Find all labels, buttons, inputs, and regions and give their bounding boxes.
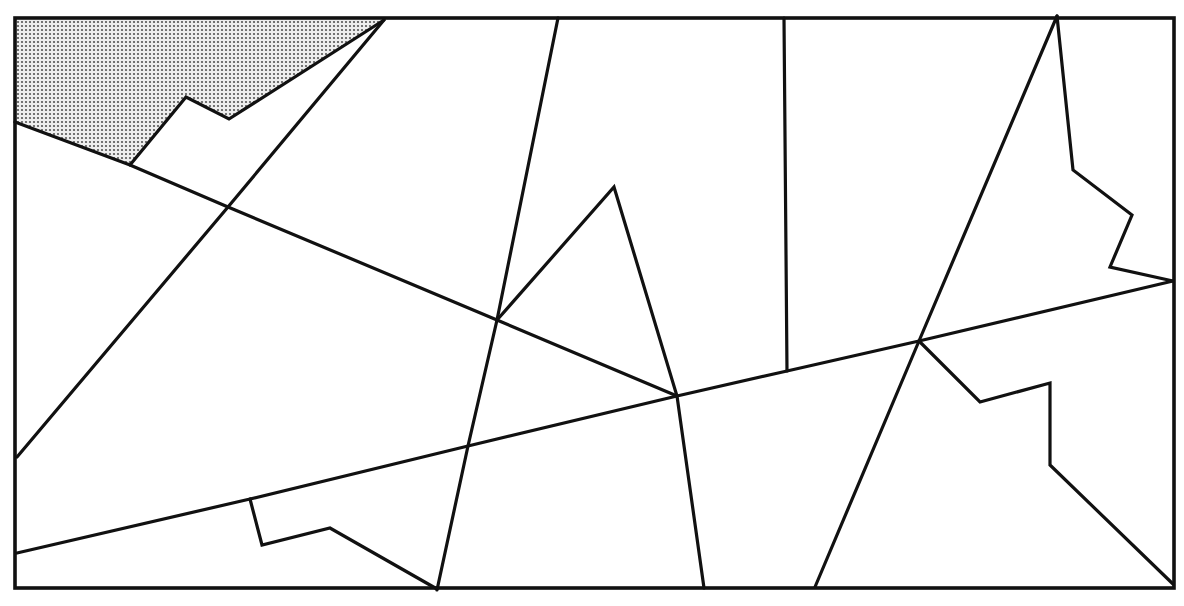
diagram-frame: [15, 18, 1174, 588]
zigzag-bottom-right: [919, 341, 1173, 584]
line-segments: [15, 16, 1173, 590]
line-c: [17, 281, 1173, 553]
line-e: [497, 187, 704, 588]
line-arrangement-diagram: [0, 0, 1184, 606]
line-g: [815, 16, 1057, 587]
zigzag-top-right: [1057, 16, 1173, 281]
line-f: [784, 18, 787, 371]
zigzag-bottom-left: [250, 499, 437, 589]
line-a: [15, 122, 677, 396]
